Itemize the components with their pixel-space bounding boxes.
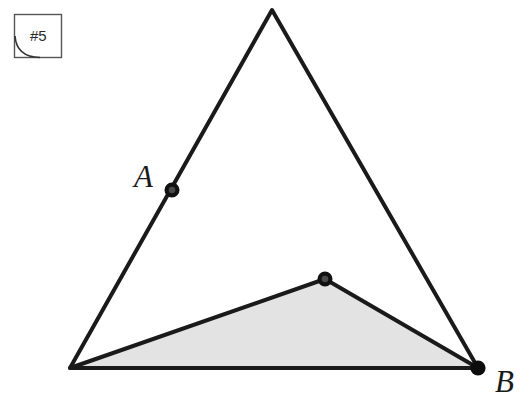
point-a-marker: [167, 185, 178, 196]
inner-shaded-triangle: [70, 279, 478, 368]
label-b: B: [495, 364, 514, 399]
inner-apex-marker: [320, 274, 331, 285]
label-a: A: [132, 159, 154, 194]
geometry-figure: A B #5: [0, 0, 532, 405]
badge-label: #5: [30, 27, 47, 44]
figure-canvas: A B #5: [0, 0, 532, 405]
problem-number-badge: #5: [15, 15, 62, 58]
point-b-marker: [470, 360, 485, 375]
